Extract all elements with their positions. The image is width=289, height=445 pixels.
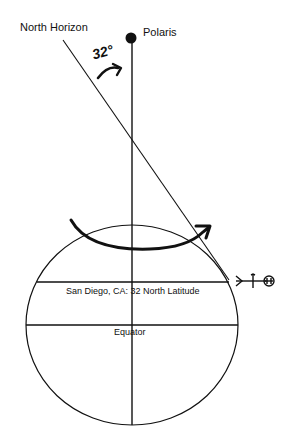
rotation-arrow [71,220,208,249]
polaris-label: Polaris [143,26,177,38]
equator-label: Equator [114,327,146,337]
angle-arc-arrowhead [113,64,121,75]
polaris-star-dot [126,33,137,44]
latitude-polaris-diagram [0,0,289,445]
latitude-label: San Diego, CA: 32 North Latitude [66,286,200,296]
angle-arc-arrow [98,67,118,78]
observer-symbol [236,274,274,288]
north-horizon-label: North Horizon [20,21,88,33]
north-horizon-line [63,40,229,280]
